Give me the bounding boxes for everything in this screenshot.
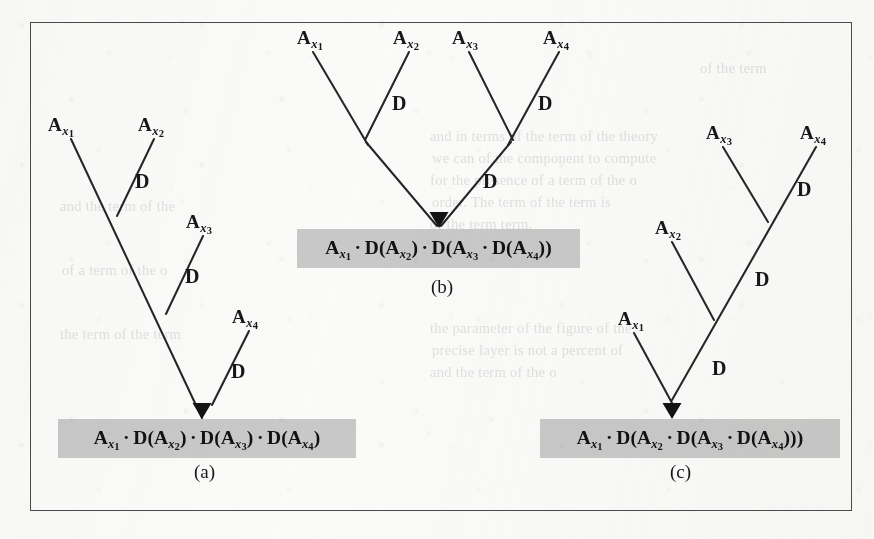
operator-label-d-3: D <box>712 357 726 380</box>
tree-edge <box>672 147 816 400</box>
panel-c: Ax3Ax4Ax2Ax1DDDAx1·D(Ax2·D(Ax3·D(Ax4)))(… <box>0 0 874 539</box>
panel-c-formula: Ax1·D(Ax2·D(Ax3·D(Ax4))) <box>540 419 840 458</box>
leaf-label-Ax4: Ax4 <box>800 122 826 144</box>
leaf-label-Ax1: Ax1 <box>618 308 644 330</box>
tree-edge <box>672 242 714 320</box>
arrowhead-icon <box>663 403 682 419</box>
operator-label-d-1: D <box>797 178 811 201</box>
tree-edge <box>634 333 672 403</box>
operator-label-d-2: D <box>755 268 769 291</box>
figure-page: and in terms of the term of the theorywe… <box>0 0 874 539</box>
panel-c-edges <box>0 0 874 539</box>
tree-edge <box>723 147 768 222</box>
panel-c-caption: (c) <box>670 461 691 483</box>
leaf-label-Ax2: Ax2 <box>655 217 681 239</box>
leaf-label-Ax3: Ax3 <box>706 122 732 144</box>
